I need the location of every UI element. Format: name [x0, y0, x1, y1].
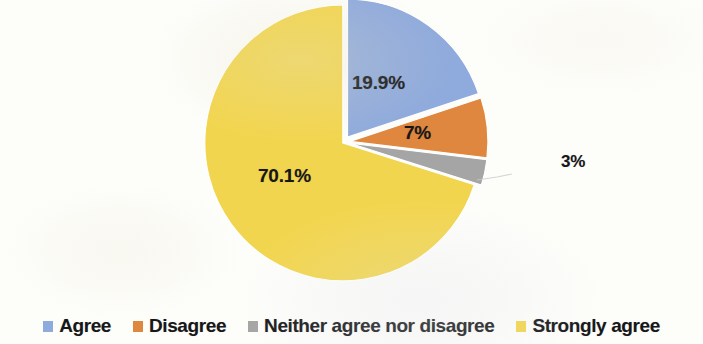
slice-label-agree: 19.9%	[352, 72, 405, 94]
chart-legend: Agree Disagree Neither agree nor disagre…	[0, 308, 703, 344]
legend-swatch-icon-neither	[248, 321, 258, 332]
legend-label-disagree: Disagree	[149, 315, 226, 337]
pie-plot-area: 19.9% 7% 70.1% 3%	[0, 0, 703, 300]
legend-item-strongly-agree[interactable]: Strongly agree	[516, 315, 659, 337]
legend-label-neither: Neither agree nor disagree	[264, 315, 494, 337]
slice-label-disagree: 7%	[404, 122, 431, 144]
slice-label-strongly-agree: 70.1%	[258, 165, 311, 187]
legend-label-strongly-agree: Strongly agree	[532, 315, 659, 337]
legend-label-agree: Agree	[59, 315, 111, 337]
legend-swatch-icon-strongly-agree	[516, 321, 526, 332]
legend-item-disagree[interactable]: Disagree	[133, 315, 226, 337]
pie-svg	[0, 0, 703, 300]
legend-item-agree[interactable]: Agree	[43, 315, 111, 337]
pie-chart-figure: 19.9% 7% 70.1% 3% Agree Disagree Neither…	[0, 0, 703, 344]
legend-swatch-icon-agree	[43, 321, 53, 332]
legend-item-neither[interactable]: Neither agree nor disagree	[248, 315, 494, 337]
slice-label-neither: 3%	[561, 152, 585, 172]
legend-swatch-icon-disagree	[133, 321, 143, 332]
